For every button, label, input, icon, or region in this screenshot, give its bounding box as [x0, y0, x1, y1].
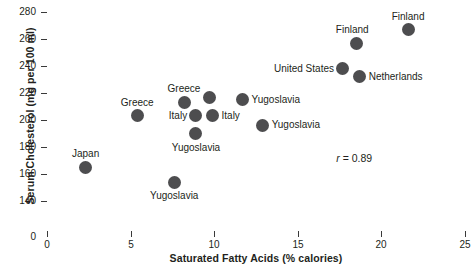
y-tick: [41, 120, 47, 121]
data-point[interactable]: [350, 37, 363, 50]
data-point-label: Greece: [168, 84, 201, 94]
data-point[interactable]: [178, 96, 191, 109]
x-tick: [47, 231, 48, 237]
y-tick: [41, 201, 47, 202]
data-point[interactable]: [336, 62, 349, 75]
y-tick: [41, 66, 47, 67]
data-point-label: Japan: [72, 149, 99, 159]
data-point[interactable]: [236, 93, 249, 106]
y-tick: [41, 147, 47, 148]
y-tick: [41, 12, 47, 13]
y-axis-line: [0, 0, 1, 225]
y-tick: [41, 39, 47, 40]
data-point[interactable]: [206, 109, 219, 122]
x-tick-label: 5: [116, 240, 146, 250]
data-point-label: Yugoslavia: [252, 95, 300, 105]
data-point-label: Finland: [392, 12, 425, 22]
x-tick: [214, 231, 215, 237]
data-point[interactable]: [353, 70, 366, 83]
data-point[interactable]: [131, 109, 144, 122]
x-axis-title: Saturated Fatty Acids (% calories): [47, 252, 465, 264]
data-point-label: Netherlands: [369, 72, 423, 82]
scatter-chart: 1401601802002202402602800 0510152025 Jap…: [0, 0, 474, 269]
x-tick: [298, 231, 299, 237]
y-axis-title: Serum Cholesterol (mg per 100 ml): [24, 26, 36, 206]
data-point-label: Finland: [336, 25, 369, 35]
correlation-annotation: r = 0.89: [336, 153, 372, 164]
data-point-label: Italy: [169, 111, 187, 121]
data-point[interactable]: [402, 23, 415, 36]
x-tick-label: 20: [366, 240, 396, 250]
data-point-label: Greece: [121, 98, 154, 108]
data-point-label: United States: [274, 64, 334, 74]
x-axis-line: [0, 225, 418, 226]
y-tick: [41, 174, 47, 175]
data-point[interactable]: [168, 176, 181, 189]
y-tick: [41, 93, 47, 94]
x-tick: [465, 231, 466, 237]
data-point[interactable]: [203, 91, 216, 104]
data-point[interactable]: [189, 109, 202, 122]
data-point-label: Yugoslavia: [272, 120, 320, 130]
data-point-label: Yugoslavia: [150, 191, 198, 201]
x-tick-label: 25: [450, 240, 474, 250]
x-tick: [381, 231, 382, 237]
data-point[interactable]: [256, 119, 269, 132]
y-tick-label: 280: [8, 7, 36, 17]
data-point[interactable]: [189, 127, 202, 140]
data-point[interactable]: [79, 161, 92, 174]
x-tick-label: 10: [199, 240, 229, 250]
x-tick-label: 0: [32, 240, 62, 250]
x-tick-label: 15: [283, 240, 313, 250]
x-tick: [131, 231, 132, 237]
data-point-label: Italy: [222, 111, 240, 121]
data-point-label: Yugoslavia: [172, 143, 220, 153]
correlation-value: = 0.89: [340, 152, 372, 164]
